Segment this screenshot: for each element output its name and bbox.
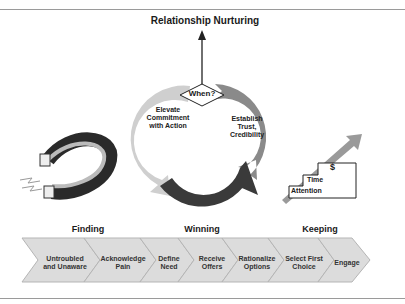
step-acknowledge: Acknowledge Pain bbox=[98, 255, 148, 271]
magnet-icon bbox=[20, 139, 110, 198]
cycle-segment-establish: Establish Trust, Credibility bbox=[222, 115, 272, 139]
phase-keeping: Keeping bbox=[290, 224, 350, 234]
step-untroubled: Untroubled and Unaware bbox=[40, 255, 90, 271]
cycle-center-label: When? bbox=[182, 89, 222, 98]
phase-winning: Winning bbox=[172, 224, 232, 234]
step-engage: Engage bbox=[330, 259, 364, 267]
stair-dollar: $ bbox=[330, 162, 335, 172]
stair-attention: Attention bbox=[291, 187, 322, 194]
step-receive: Receive Offers bbox=[194, 255, 230, 271]
stair-time: Time bbox=[307, 176, 323, 183]
phase-finding: Finding bbox=[58, 224, 118, 234]
step-define: Define Need bbox=[154, 255, 184, 271]
step-select: Select First Choice bbox=[282, 255, 326, 271]
cycle-segment-elevate: Elevate Commitment with Action bbox=[140, 106, 196, 130]
cycle-segment-gather: Gather Information bbox=[178, 170, 228, 186]
step-rationalize: Rationalize Options bbox=[236, 255, 278, 271]
